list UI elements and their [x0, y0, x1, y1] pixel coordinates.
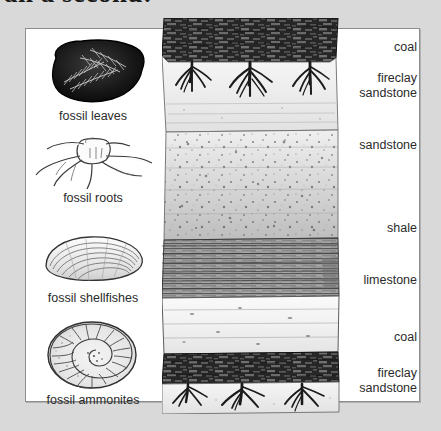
- fossil-shellfish-icon: [26, 228, 160, 290]
- rock-label-coal-lower: coal: [394, 330, 417, 345]
- fossil-caption: fossil shellfishes: [26, 291, 160, 305]
- rock-label-coal-upper: coal: [394, 40, 417, 55]
- fossil-leaves-icon: [26, 36, 160, 108]
- rock-label-shale: shale: [387, 221, 417, 236]
- fossil-caption: fossil roots: [26, 191, 160, 205]
- stratum-limestone: [162, 296, 339, 354]
- fossil-specimen-list: fossil leaves: [26, 30, 160, 400]
- rock-label-sandstone: sandstone: [359, 138, 417, 153]
- fossil-specimen-roots: fossil roots: [26, 134, 160, 205]
- fossil-ammonite-icon: [26, 318, 160, 392]
- page-title: an a seconu:: [0, 0, 441, 8]
- stratum-sandstone: [164, 130, 338, 240]
- fossil-specimen-ammonites: fossil ammonites: [26, 318, 160, 407]
- fossil-specimen-leaves: fossil leaves: [26, 36, 160, 123]
- fossil-specimen-shellfishes: fossil shellfishes: [26, 228, 160, 305]
- rock-strata-column: [162, 18, 340, 414]
- stratum-coal-upper: [162, 18, 338, 62]
- rock-label-sandstone-upper: sandstone: [359, 86, 417, 101]
- fossil-roots-icon: [26, 134, 160, 190]
- rock-label-fireclay-lower: fireclay: [377, 366, 417, 381]
- strata-diagram: [162, 18, 340, 414]
- stratum-fireclay-upper: [162, 56, 338, 132]
- stratum-coal-lower: [162, 352, 339, 384]
- rock-label-sandstone-lower: sandstone: [359, 381, 417, 396]
- fossil-caption: fossil leaves: [26, 109, 160, 123]
- stratum-fireclay-lower: [162, 382, 339, 414]
- fossil-caption: fossil ammonites: [26, 393, 160, 407]
- rock-label-fireclay-upper: fireclay: [377, 71, 417, 86]
- stratum-shale: [162, 238, 339, 298]
- rock-type-label-list: coal fireclay sandstone sandstone shale …: [330, 28, 420, 402]
- rock-label-limestone: limestone: [364, 273, 418, 288]
